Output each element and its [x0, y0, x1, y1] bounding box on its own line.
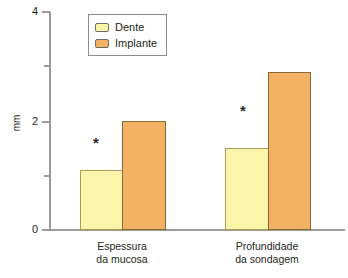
category-label-espessura: Espessura da mucosa [62, 240, 182, 266]
category-label-profundidade-line1: Profundidade [207, 240, 327, 253]
legend-item-implante: Implante [95, 35, 157, 51]
legend-label-dente: Dente [115, 22, 144, 33]
bar-dente-profundidade [225, 148, 269, 230]
category-label-profundidade: Profundidade da sondagem [207, 240, 327, 266]
y-axis-title: mm [12, 103, 22, 143]
category-label-espessura-line1: Espessura [62, 240, 182, 253]
category-label-profundidade-line2: da sondagem [207, 253, 327, 266]
legend-swatch-dente-icon [95, 23, 109, 32]
y-tick-label-4: 4 [8, 6, 38, 17]
bar-implante-espessura [122, 121, 166, 230]
bar-dente-espessura [80, 170, 123, 230]
significance-marker-espessura: * [89, 135, 103, 150]
significance-marker-profundidade: * [236, 103, 250, 118]
y-tick-label-0: 0 [8, 224, 38, 235]
legend-item-dente: Dente [95, 19, 157, 35]
bar-implante-profundidade [268, 72, 311, 230]
legend: Dente Implante [88, 14, 167, 56]
legend-swatch-implante-icon [95, 39, 109, 48]
category-label-espessura-line2: da mucosa [62, 253, 182, 266]
legend-label-implante: Implante [115, 38, 157, 49]
bar-chart: 4 2 0 mm * * Espessura da mucosa Profund… [0, 0, 348, 278]
